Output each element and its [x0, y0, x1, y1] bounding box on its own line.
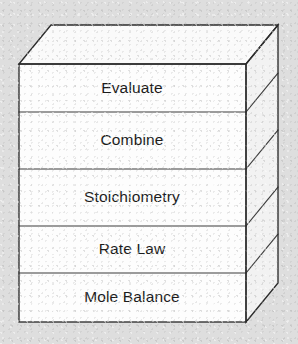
diagram-canvas: Evaluate Combine Stoichiometry Rate Law …: [0, 0, 298, 344]
layer-label-combine: Combine: [100, 131, 163, 148]
layer-label-mole-balance: Mole Balance: [84, 288, 180, 305]
layer-label-stoichiometry: Stoichiometry: [84, 188, 180, 205]
layer-label-rate-law: Rate Law: [99, 240, 166, 257]
algorithm-block-stack-diagram: Evaluate Combine Stoichiometry Rate Law …: [0, 0, 298, 344]
block-top-face: [19, 25, 278, 64]
block-right-side-face: [246, 25, 278, 322]
layer-label-evaluate: Evaluate: [101, 79, 163, 96]
